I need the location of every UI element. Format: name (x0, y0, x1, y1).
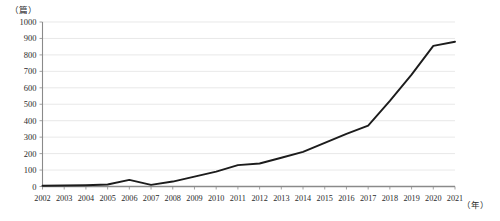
plot-area: 01002003004005006007008009001000 2002200… (0, 0, 500, 221)
x-axis-tick-label: 2013 (273, 194, 289, 203)
x-axis-tick-label: 2015 (317, 194, 333, 203)
x-axis-tick-label: 2005 (99, 194, 115, 203)
y-axis-tick-label: 1000 (20, 17, 37, 27)
y-axis-tick-label: 700 (24, 66, 37, 76)
y-axis-tick-label: 100 (24, 165, 37, 175)
y-axis-tick-label: 800 (24, 50, 37, 60)
x-axis-tick-label: 2010 (208, 194, 224, 203)
x-axis-tick-label: 2006 (121, 194, 137, 203)
x-axis-tick-label: 2016 (338, 194, 354, 203)
y-axis-tick-label: 500 (24, 99, 37, 109)
x-axis-tick-label: 2004 (78, 194, 94, 203)
data-series-line (43, 42, 456, 186)
chart-svg: 01002003004005006007008009001000 2002200… (0, 0, 500, 221)
y-axis-tick-label: 600 (24, 83, 37, 93)
x-axis-tick-label: 2014 (295, 194, 311, 203)
x-axis-tick-label: 2017 (360, 194, 376, 203)
x-axis-tick-label: 2018 (382, 194, 398, 203)
x-axis-tick-label: 2002 (34, 194, 50, 203)
x-axis-tick-label: 2012 (251, 194, 267, 203)
y-axis-tick-label: 400 (24, 116, 37, 126)
y-axis-tick-label: 200 (24, 149, 37, 159)
gridlines (40, 22, 456, 187)
x-axis-tick-label: 2020 (425, 194, 441, 203)
x-axis-tick-label: 2011 (230, 194, 246, 203)
x-axis-tick-label: 2003 (56, 194, 72, 203)
x-axis-tick-label: 2008 (165, 194, 181, 203)
y-axis-tick-label: 900 (24, 33, 37, 43)
y-axis-tick-label: 0 (32, 182, 36, 192)
x-axis-tick-labels: 2002200320042005200620072008200920102011… (34, 194, 463, 203)
y-axis-tick-labels: 01002003004005006007008009001000 (20, 17, 37, 192)
x-axis-tick-label: 2009 (186, 194, 202, 203)
x-axis-tick-label: 2021 (447, 194, 463, 203)
line-chart: （篇） （年） 01002003004005006007008009001000… (0, 0, 500, 221)
y-axis-tick-label: 300 (24, 132, 37, 142)
x-axis-tick-label: 2019 (403, 194, 419, 203)
x-axis-tick-label: 2007 (143, 194, 159, 203)
